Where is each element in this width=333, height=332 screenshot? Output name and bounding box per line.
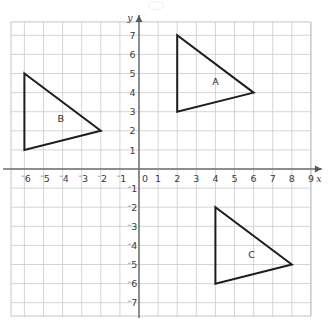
y-axis-tick-label: –5 — [128, 259, 138, 270]
y-axis-label: y — [126, 12, 133, 23]
y-axis-arrow-icon — [136, 15, 143, 22]
triangle-label-b: B — [57, 113, 64, 124]
shape-labels-layer: ABC — [57, 76, 255, 261]
x-axis-tick-label: –4 — [59, 172, 69, 183]
x-axis-tick-label: –2 — [98, 172, 108, 183]
y-axis-tick-label: 2 — [129, 125, 135, 136]
x-axis-tick-label: 8 — [289, 173, 295, 184]
x-axis-origin-label: 0 — [142, 173, 148, 184]
x-axis-tick-label: –1 — [117, 172, 127, 183]
x-axis-tick-label: 3 — [193, 173, 199, 184]
y-axis-tick-label: –3 — [128, 221, 138, 232]
x-axis-tick-label: 6 — [251, 173, 257, 184]
x-axis-tick-label: 7 — [270, 173, 276, 184]
x-axis-tick-label: –5 — [40, 172, 50, 183]
coordinate-plane-figure: xy –6–5–4–3–2–101234567897654321–1–2–3–4… — [0, 0, 333, 332]
triangle-label-c: C — [248, 249, 255, 260]
triangle-label-a: A — [212, 76, 219, 87]
y-axis-tick-label: –4 — [128, 240, 138, 251]
axes-layer: xy — [3, 12, 322, 318]
x-axis-arrow-icon — [315, 166, 322, 173]
x-axis-tick-label: –3 — [78, 172, 88, 183]
y-axis-tick-label: 6 — [129, 49, 135, 60]
x-axis-tick-label: 2 — [174, 173, 180, 184]
y-axis-tick-label: 4 — [129, 87, 135, 98]
y-axis-tick-label: –2 — [128, 202, 138, 213]
x-axis-tick-label: 1 — [155, 173, 161, 184]
y-axis-tick-label: 3 — [129, 106, 135, 117]
y-axis-tick-label: 1 — [129, 145, 135, 156]
y-axis-tick-label: –6 — [128, 278, 138, 289]
x-axis-tick-label: 5 — [231, 173, 237, 184]
y-axis-tick-label: 5 — [129, 68, 135, 79]
coordinate-plane-svg: xy –6–5–4–3–2–101234567897654321–1–2–3–4… — [0, 0, 333, 332]
y-axis-tick-label: 7 — [129, 30, 135, 41]
y-axis-tick-label: –1 — [128, 183, 138, 194]
x-axis-tick-label: 4 — [212, 173, 218, 184]
x-axis-label: x — [316, 173, 322, 184]
x-axis-tick-label: –6 — [21, 172, 31, 183]
x-axis-tick-label: 9 — [308, 173, 314, 184]
y-axis-tick-label: –7 — [128, 297, 138, 308]
